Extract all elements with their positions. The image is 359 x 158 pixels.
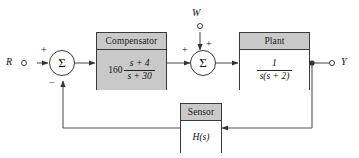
block-sensor-body: H(s) [181, 121, 221, 153]
sign-minus-feedback: − [49, 78, 55, 88]
block-compensator-body: 160 s + 4 s + 30 [97, 50, 166, 90]
plant-denominator: s(s + 2) [257, 70, 293, 82]
compensator-gain: 160 [108, 65, 122, 76]
block-sensor[interactable]: Sensor H(s) [180, 103, 222, 153]
compensator-numerator: s + 4 [127, 59, 153, 70]
disturbance-signal-label: W [192, 7, 200, 18]
block-diagram-canvas: R W Y Σ + − Σ + + Compensator 160 s + 4 … [0, 0, 359, 158]
sign-plus-control: + [182, 45, 188, 55]
block-plant-title: Plant [240, 33, 309, 50]
block-plant-body: 1 s(s + 2) [240, 50, 309, 90]
input-signal-label: R [6, 56, 12, 67]
plant-fraction: 1 s(s + 2) [257, 59, 293, 82]
block-sensor-title: Sensor [181, 104, 221, 121]
compensator-denominator: s + 30 [124, 70, 154, 82]
plant-transfer-function: 1 s(s + 2) [257, 59, 293, 82]
sigma-symbol-error: Σ [58, 55, 66, 71]
compensator-transfer-function: 160 s + 4 s + 30 [108, 59, 155, 82]
plant-numerator: 1 [269, 59, 280, 70]
input-terminal-circle[interactable] [21, 60, 27, 66]
disturbance-terminal-circle[interactable] [197, 23, 203, 29]
block-compensator-title: Compensator [97, 33, 166, 50]
summing-junction-disturbance[interactable]: Σ [190, 50, 216, 76]
block-plant[interactable]: Plant 1 s(s + 2) [239, 32, 310, 90]
summing-junction-error[interactable]: Σ [49, 50, 75, 76]
output-signal-label: Y [341, 56, 347, 67]
sensor-transfer-function: H(s) [193, 132, 210, 142]
block-compensator[interactable]: Compensator 160 s + 4 s + 30 [96, 32, 167, 90]
compensator-fraction: s + 4 s + 30 [124, 59, 154, 82]
sign-plus-reference: + [41, 45, 47, 55]
output-terminal-circle[interactable] [329, 60, 335, 66]
sign-plus-disturbance: + [206, 39, 212, 49]
output-junction-dot [309, 60, 314, 65]
sigma-symbol-disturbance: Σ [199, 55, 207, 71]
